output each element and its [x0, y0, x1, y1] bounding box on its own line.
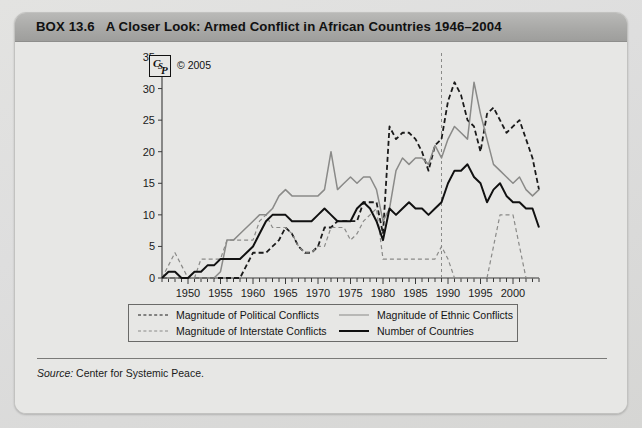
series-line-1: [162, 82, 539, 278]
box-label: BOX 13.6: [36, 19, 95, 34]
x-tick-label: 1995: [468, 287, 492, 299]
x-tick-label: 1955: [208, 287, 232, 299]
y-tick-label: 25: [143, 114, 155, 126]
page-root: BOX 13.6A Closer Look: Armed Conflict in…: [0, 0, 642, 428]
x-tick-label: 1980: [371, 287, 395, 299]
legend-item-political-conflicts: Magnitude of Political Conflicts: [138, 309, 319, 321]
legend-label-ethnic-conflicts: Magnitude of Ethnic Conflicts: [377, 309, 513, 321]
x-tick-label: 1975: [338, 287, 362, 299]
legend-swatch-solid-black-icon: [339, 325, 369, 337]
chart-figure: 0510152025303519501955196019651970197519…: [15, 42, 628, 310]
x-tick-label: 2000: [501, 287, 525, 299]
y-tick-label: 20: [143, 146, 155, 158]
source-divider: [37, 358, 607, 359]
legend-item-number-of-countries: Number of Countries: [339, 325, 474, 337]
y-tick-label: 10: [143, 209, 155, 221]
legend-item-interstate-conflicts: Magnitude of Interstate Conflicts: [138, 325, 327, 337]
legend-label-interstate-conflicts: Magnitude of Interstate Conflicts: [176, 325, 327, 337]
source-prefix: Source:: [37, 367, 73, 379]
x-tick-label: 1965: [273, 287, 297, 299]
legend-swatch-dashed-black-icon: [138, 309, 168, 321]
page-title: BOX 13.6A Closer Look: Armed Conflict in…: [36, 19, 502, 34]
legend-label-number-of-countries: Number of Countries: [377, 325, 474, 337]
conflict-line-chart: 0510152025303519501955196019651970197519…: [15, 42, 628, 310]
legend-swatch-solid-gray-icon: [339, 309, 369, 321]
y-tick-label: 30: [143, 83, 155, 95]
series-line-3: [162, 164, 539, 278]
box-content: 0510152025303519501955196019651970197519…: [15, 42, 627, 414]
x-tick-label: 1950: [176, 287, 200, 299]
legend-grid: Magnitude of Political Conflicts Magnitu…: [129, 305, 517, 341]
box-panel: BOX 13.6A Closer Look: Armed Conflict in…: [14, 12, 628, 414]
box-title-text: A Closer Look: Armed Conflict in African…: [106, 19, 502, 34]
legend-item-ethnic-conflicts: Magnitude of Ethnic Conflicts: [339, 309, 513, 321]
source-value: Center for Systemic Peace.: [73, 367, 204, 379]
csp-logo-glyph: C S P: [150, 56, 170, 76]
copyright-text: © 2005: [177, 59, 211, 71]
y-tick-label: 0: [149, 272, 155, 284]
x-tick-label: 1990: [436, 287, 460, 299]
x-tick-label: 1960: [241, 287, 265, 299]
source-line: Source: Center for Systemic Peace.: [37, 367, 204, 379]
csp-logo: C S P: [149, 55, 171, 77]
y-tick-label: 5: [149, 240, 155, 252]
legend-label-political-conflicts: Magnitude of Political Conflicts: [176, 309, 319, 321]
x-tick-label: 1970: [306, 287, 330, 299]
series-line-0: [162, 82, 539, 278]
legend-swatch-dashed-gray-icon: [138, 325, 168, 337]
y-tick-label: 15: [143, 177, 155, 189]
x-tick-label: 1985: [403, 287, 427, 299]
series-line-2: [162, 209, 539, 278]
chart-legend: Magnitude of Political Conflicts Magnitu…: [128, 304, 518, 342]
csp-logo-p: P: [161, 65, 168, 76]
